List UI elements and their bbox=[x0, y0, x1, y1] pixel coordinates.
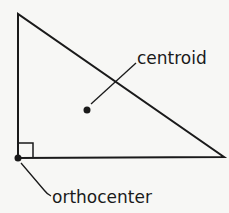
triangle-diagram: centroid orthocenter bbox=[0, 0, 229, 213]
centroid-label: centroid bbox=[137, 50, 207, 67]
right-angle-marker bbox=[18, 143, 33, 157]
orthocenter-point bbox=[15, 155, 22, 162]
orthocenter-leader-line bbox=[21, 163, 51, 196]
orthocenter-label: orthocenter bbox=[52, 189, 152, 206]
right-triangle bbox=[18, 14, 224, 158]
triangle-figure bbox=[0, 0, 229, 213]
centroid-point bbox=[84, 107, 91, 114]
